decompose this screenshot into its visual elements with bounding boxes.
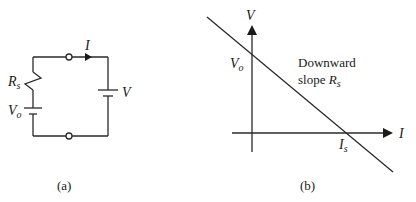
top-terminal <box>66 54 72 60</box>
figure: I V Rs Vo (a) V I Vo Is Downward slope R… <box>0 0 416 202</box>
circuit-diagram: I V Rs Vo (a) <box>7 38 132 193</box>
resistor-icon <box>25 72 41 90</box>
caption-a: (a) <box>57 178 71 193</box>
x-axis-arrow-icon <box>383 128 393 138</box>
i-intercept-label: Is <box>338 137 348 154</box>
battery-label: V <box>122 85 132 100</box>
source-label: Vo <box>8 103 22 120</box>
vi-graph: V I Vo Is Downward slope Rs (b) <box>207 8 405 193</box>
load-line <box>207 17 393 172</box>
bottom-terminal <box>66 133 72 139</box>
y-axis-arrow-icon <box>247 25 257 35</box>
y-axis-label: V <box>246 8 256 23</box>
current-arrow-icon <box>85 53 92 61</box>
slope-annotation-line2: slope Rs <box>298 72 341 89</box>
slope-annotation-line1: Downward <box>298 55 356 70</box>
current-label: I <box>84 38 91 53</box>
v-intercept-label: Vo <box>230 56 244 73</box>
resistor-label: Rs <box>7 74 21 91</box>
caption-b: (b) <box>300 178 315 193</box>
x-axis-label: I <box>398 126 405 141</box>
